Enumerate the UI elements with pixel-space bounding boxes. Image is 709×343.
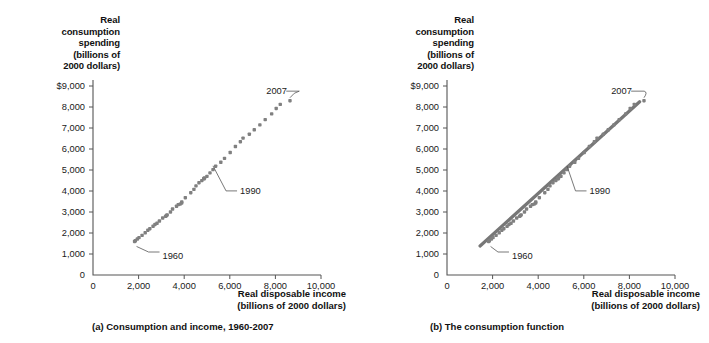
data-point: [270, 112, 273, 115]
x-axis-title-line-2: (billions of 2000 dollars): [504, 300, 700, 312]
annotation-label-1990: 1990: [240, 186, 261, 196]
data-point: [205, 175, 208, 178]
annotation-leader-line-1990: [213, 166, 237, 191]
y-tick-label: 1,000: [416, 249, 439, 259]
data-point: [258, 123, 261, 126]
data-point: [618, 118, 621, 121]
data-point: [264, 118, 267, 121]
data-point: [137, 236, 140, 239]
x-axis-title-line-1: Real disposable income: [504, 288, 700, 300]
data-point: [288, 99, 291, 102]
panel-b-plot: 01,0002,0003,0004,0005,0006,0007,0008,00…: [354, 0, 709, 300]
data-point: [628, 107, 631, 110]
data-point: [219, 161, 222, 164]
annotation-label-1990: 1990: [590, 186, 611, 196]
data-point: [214, 164, 217, 167]
consumption-function-line: [480, 102, 640, 246]
y-tick-label: 5,000: [62, 165, 85, 175]
y-tick-label: 3,000: [416, 207, 439, 217]
panel-b-consumption-function: Real consumption spending (billions of 2…: [354, 0, 709, 343]
data-point: [624, 112, 627, 115]
data-point: [253, 128, 256, 131]
data-point: [241, 136, 244, 139]
annotation-leader-line-1960: [137, 246, 160, 252]
data-point: [274, 107, 277, 110]
y-tick-label: 6,000: [416, 144, 439, 154]
y-tick-label: 8,000: [416, 102, 439, 112]
data-point: [519, 213, 522, 216]
annotation-leader-line-1960: [491, 246, 509, 252]
data-point: [546, 188, 549, 191]
y-tick-label: 6,000: [62, 144, 85, 154]
data-point: [602, 133, 605, 136]
y-tick-label: 2,000: [62, 228, 85, 238]
panel-a-caption: (a) Consumption and income, 1960-2007: [92, 321, 274, 332]
data-point: [140, 234, 143, 237]
panel-a-x-axis-title: Real disposable income (billions of 2000…: [150, 288, 346, 312]
panel-b-caption: (b) The consumption function: [430, 321, 564, 332]
y-tick-label: 7,000: [62, 123, 85, 133]
data-point: [612, 123, 615, 126]
x-axis-title-line-2: (billions of 2000 dollars): [150, 300, 346, 312]
data-point: [523, 210, 526, 213]
data-point: [543, 191, 546, 194]
data-point: [577, 157, 580, 160]
figure-container: Real consumption spending (billions of 2…: [0, 0, 709, 343]
data-point: [234, 145, 237, 148]
data-point: [491, 236, 494, 239]
data-point: [158, 219, 161, 222]
data-point: [534, 200, 537, 203]
y-tick-label: 0: [434, 270, 439, 280]
data-point: [202, 177, 205, 180]
x-tick-label: 0: [90, 281, 95, 291]
data-point: [515, 216, 518, 219]
data-point: [494, 234, 497, 237]
x-tick-label: 0: [444, 281, 449, 291]
data-point: [184, 196, 187, 199]
annotation-label-1960: 1960: [163, 251, 184, 261]
annotation-leader-line-1990: [567, 166, 587, 191]
data-point: [556, 177, 559, 180]
data-point: [633, 103, 636, 106]
annotation-leader-line-2007: [286, 91, 299, 98]
data-point: [208, 171, 211, 174]
data-point: [512, 219, 515, 222]
data-point: [538, 196, 541, 199]
data-point: [642, 99, 645, 102]
data-point: [171, 207, 174, 210]
annotation-label-1960: 1960: [512, 251, 533, 261]
data-point-series: [487, 99, 646, 243]
data-point: [562, 171, 565, 174]
data-point: [194, 184, 197, 187]
y-tick-label: 0: [80, 270, 85, 280]
y-tick-label: 4,000: [62, 186, 85, 196]
y-tick-label: 1,000: [62, 249, 85, 259]
x-tick-label: 2,000: [127, 281, 150, 291]
data-point-series: [133, 99, 292, 243]
data-point: [568, 164, 571, 167]
data-point: [279, 103, 282, 106]
annotation-leader-line-2007: [631, 91, 646, 98]
data-point: [169, 210, 172, 213]
x-tick-label: 2,000: [481, 281, 504, 291]
data-point: [573, 161, 576, 164]
data-point: [189, 191, 192, 194]
panel-b-x-axis-title: Real disposable income (billions of 2000…: [504, 288, 700, 312]
x-axis-title-line-1: Real disposable income: [150, 288, 346, 300]
data-point: [228, 151, 231, 154]
annotation-label-2007: 2007: [266, 86, 287, 96]
panel-a-consumption-and-income: Real consumption spending (billions of 2…: [0, 0, 354, 343]
y-tick-label: $9,000: [57, 81, 85, 91]
data-point: [502, 227, 505, 230]
data-point: [595, 136, 598, 139]
data-point: [165, 213, 168, 216]
data-point: [588, 145, 591, 148]
y-tick-label: 5,000: [416, 165, 439, 175]
data-point: [559, 175, 562, 178]
y-tick-label: $9,000: [411, 81, 439, 91]
y-tick-label: 2,000: [416, 228, 439, 238]
data-point: [161, 216, 164, 219]
data-point: [239, 140, 242, 143]
data-point: [223, 157, 226, 160]
y-tick-label: 8,000: [62, 102, 85, 112]
